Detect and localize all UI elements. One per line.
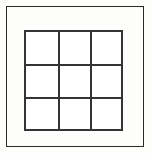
grid-cell-r2c1 — [26, 66, 60, 99]
grid-cell-r1c1 — [26, 32, 60, 66]
grid-cell-r2c3 — [92, 66, 121, 99]
grid-cell-r3c2 — [60, 99, 92, 129]
grid-cell-r1c3 — [92, 32, 121, 66]
three-by-three-grid — [24, 30, 123, 131]
figure-canvas — [0, 0, 151, 153]
grid-cell-r1c2 — [60, 32, 92, 66]
grid-cell-r3c3 — [92, 99, 121, 129]
grid-cell-r3c1 — [26, 99, 60, 129]
grid-cell-r2c2 — [60, 66, 92, 99]
